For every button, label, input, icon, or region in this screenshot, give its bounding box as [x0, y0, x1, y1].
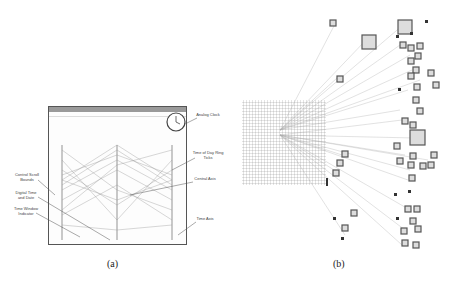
panel-b-graphics — [0, 0, 457, 288]
caption-b: (b) — [333, 258, 345, 269]
grid-matrix — [242, 100, 326, 185]
